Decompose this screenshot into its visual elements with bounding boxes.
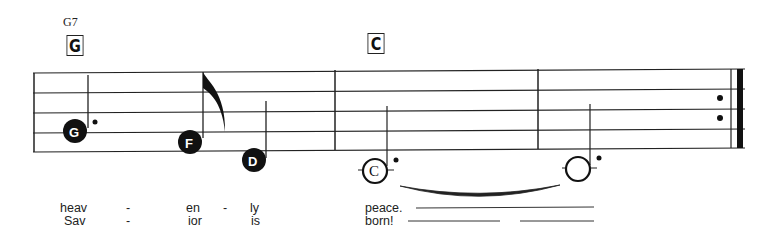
lyric: - — [223, 202, 227, 215]
note-label: D — [248, 154, 257, 169]
note-label: C — [369, 163, 379, 180]
repeat-dot — [717, 115, 723, 121]
lyric: - — [126, 215, 130, 228]
lyric: ior — [188, 215, 202, 228]
final-barline — [737, 69, 743, 148]
lyric: is — [251, 215, 260, 228]
repeat-dot — [717, 95, 723, 101]
note-label: F — [185, 136, 193, 151]
lyric: Sav — [64, 215, 86, 228]
tie — [400, 185, 560, 196]
note-label: G — [69, 125, 79, 140]
lyric: born! — [365, 215, 394, 228]
note-tied — [562, 104, 602, 181]
